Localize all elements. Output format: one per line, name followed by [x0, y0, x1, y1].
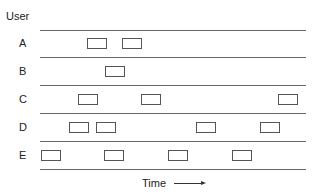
activity-box — [104, 150, 124, 161]
user-label-a: A — [19, 37, 26, 49]
user-label-e: E — [19, 149, 26, 161]
activity-box — [78, 94, 98, 105]
row-divider-line — [40, 141, 306, 142]
row-divider-line — [40, 30, 306, 31]
y-axis-label: User — [6, 10, 29, 22]
activity-box — [168, 150, 188, 161]
x-axis-label: Time — [142, 177, 166, 189]
activity-box — [96, 122, 116, 133]
activity-box — [41, 150, 61, 161]
user-label-c: C — [19, 93, 27, 105]
row-divider-line — [40, 85, 306, 86]
activity-box — [232, 150, 252, 161]
activity-box — [105, 66, 125, 77]
activity-box — [141, 94, 161, 105]
user-label-b: B — [19, 65, 26, 77]
time-arrow-icon — [174, 183, 204, 184]
row-divider-line — [40, 113, 306, 114]
row-divider-line — [40, 169, 306, 170]
activity-box — [122, 38, 142, 49]
user-label-d: D — [19, 121, 27, 133]
activity-box — [278, 94, 298, 105]
activity-box — [196, 122, 216, 133]
activity-box — [260, 122, 280, 133]
activity-box — [87, 38, 107, 49]
row-divider-line — [40, 57, 306, 58]
activity-box — [69, 122, 89, 133]
